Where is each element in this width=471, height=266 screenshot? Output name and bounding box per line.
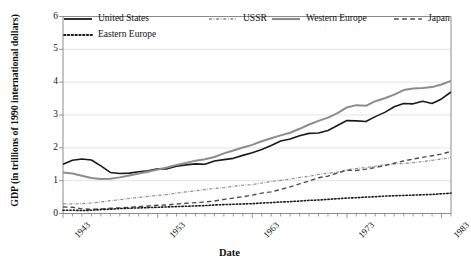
legend-item-japan[interactable]: Japan xyxy=(393,13,450,23)
legend-swatch-icon xyxy=(63,14,93,23)
legend-item-eastern-europe[interactable]: Eastern Europe xyxy=(63,29,156,39)
legend-label: Western Europe xyxy=(306,13,367,23)
legend-item-western-europe[interactable]: Western Europe xyxy=(271,13,367,23)
legend-swatch-icon xyxy=(271,14,301,23)
legend-label: United States xyxy=(98,13,149,23)
chart-legend: United StatesUSSRWestern EuropeJapanEast… xyxy=(63,13,451,45)
legend-swatch-icon xyxy=(63,30,93,39)
series-line-united-states xyxy=(63,92,451,173)
legend-swatch-icon xyxy=(208,14,238,23)
legend-item-ussr[interactable]: USSR xyxy=(208,13,267,23)
legend-label: Japan xyxy=(428,13,450,23)
legend-label: USSR xyxy=(243,13,267,23)
legend-label: Eastern Europe xyxy=(98,29,156,39)
legend-item-united-states[interactable]: United States xyxy=(63,13,149,23)
x-axis-title: Date xyxy=(0,247,459,258)
series-line-eastern-europe xyxy=(63,193,451,210)
legend-swatch-icon xyxy=(393,14,423,23)
